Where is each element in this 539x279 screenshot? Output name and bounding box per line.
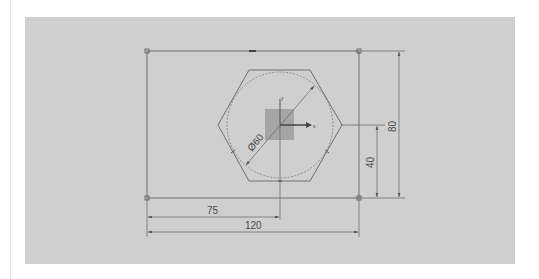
dimension-80-label[interactable]: 80 bbox=[387, 120, 398, 132]
y-axis-label: y bbox=[281, 95, 284, 101]
sketch-rectangle[interactable] bbox=[147, 51, 359, 198]
sketch-drawing[interactable]: Ø60 x y 75 120 40 80 bbox=[0, 0, 539, 279]
x-axis-label: x bbox=[313, 123, 316, 129]
dimension-40-label[interactable]: 40 bbox=[365, 156, 376, 168]
dimension-75-label[interactable]: 75 bbox=[207, 205, 219, 216]
diameter-dimension-label[interactable]: Ø60 bbox=[245, 131, 266, 153]
x-axis-arrow-icon bbox=[306, 122, 312, 128]
dimension-120-label[interactable]: 120 bbox=[245, 220, 262, 231]
